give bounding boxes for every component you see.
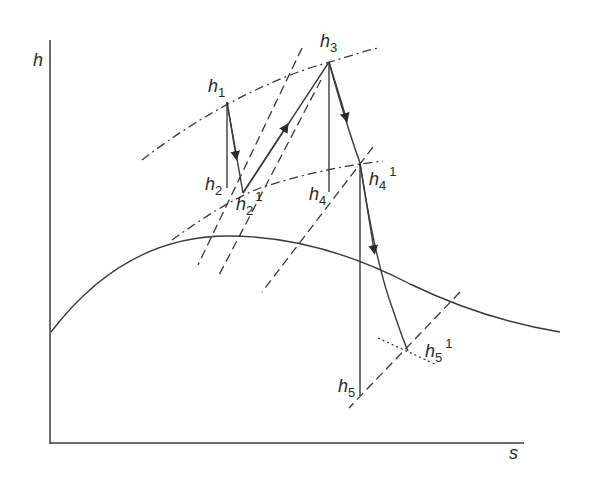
dashed-line-d [349, 292, 460, 408]
svg-text:h5: h5 [338, 376, 355, 400]
dashed-line-c [262, 147, 373, 292]
hs-diagram: h s h1 h2 h21 h3 h4 h41 h5 h [0, 0, 591, 483]
svg-text:h1: h1 [208, 76, 225, 100]
isobar-middle [172, 161, 383, 240]
dashed-line-b [218, 80, 321, 277]
svg-text:h3: h3 [320, 31, 337, 55]
svg-text:h51: h51 [425, 336, 452, 365]
label-h5: h5 [338, 376, 355, 400]
saturation-curve [51, 236, 560, 332]
svg-text:h4: h4 [309, 184, 326, 208]
label-h1: h1 [208, 76, 225, 100]
svg-text:h41: h41 [369, 164, 396, 193]
arrow-h1-h2-1 [227, 102, 236, 156]
x-axis-label: s [509, 443, 518, 463]
arrow-h3-h4-1 [329, 62, 346, 118]
y-axis-label: h [33, 50, 43, 70]
label-h4-1: h41 [369, 164, 396, 193]
label-h3: h3 [320, 31, 337, 55]
label-h5-1: h51 [425, 336, 452, 365]
axes: h s [33, 40, 524, 463]
label-h2: h2 [205, 174, 222, 198]
label-h4: h4 [309, 184, 326, 208]
svg-text:h2: h2 [205, 174, 222, 198]
